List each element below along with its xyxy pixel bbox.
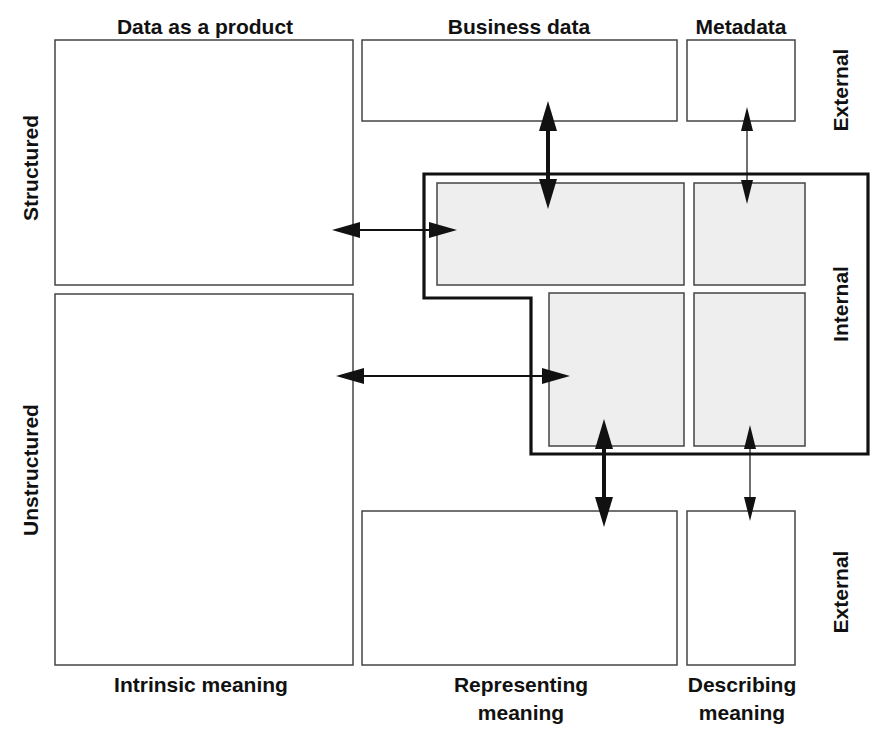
row-label-external-top: External	[829, 49, 852, 132]
box-metadata-external-bottom	[687, 511, 795, 665]
row-label-structured: Structured	[19, 115, 42, 221]
box-metadata-internal-structured	[694, 183, 805, 285]
column-footer-intrinsic-meaning: Intrinsic meaning	[114, 673, 288, 696]
box-business-internal-structured	[437, 183, 684, 285]
row-label-unstructured: Unstructured	[19, 404, 42, 536]
column-header-metadata: Metadata	[695, 15, 786, 38]
column-footer-representing-meaning: Representing	[454, 673, 588, 696]
row-label-internal: Internal	[829, 266, 852, 342]
arrow-unstructured-to-internal-icon	[336, 368, 570, 384]
box-metadata-external-top	[687, 40, 795, 121]
box-business-internal-unstructured	[549, 293, 684, 446]
column-header-data-as-product: Data as a product	[117, 15, 293, 38]
row-label-external-bottom: External	[829, 551, 852, 634]
box-metadata-internal-unstructured	[694, 293, 805, 446]
box-data-product-unstructured	[55, 294, 353, 665]
column-footer-describing-meaning: meaning	[699, 701, 785, 724]
column-footer-representing-meaning: meaning	[478, 701, 564, 724]
arrows-layer	[332, 101, 756, 527]
column-header-business-data: Business data	[448, 15, 591, 38]
box-data-product-structured	[55, 40, 353, 285]
box-business-external-bottom	[362, 511, 677, 665]
column-footer-describing-meaning: Describing	[688, 673, 797, 696]
boxes-layer	[55, 40, 805, 665]
data-classification-diagram: Data as a productBusiness dataMetadataIn…	[0, 0, 884, 741]
box-business-external-top	[362, 40, 677, 121]
